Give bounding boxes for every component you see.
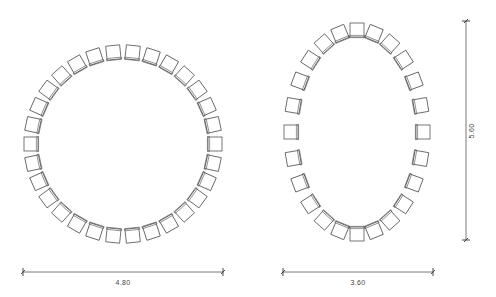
chair-icon xyxy=(187,80,208,101)
chair-icon xyxy=(51,65,72,86)
chair-icon xyxy=(285,150,302,167)
chair-icon xyxy=(393,50,414,71)
dimension-label-circle-width: 4.80 xyxy=(116,279,131,286)
chair-icon xyxy=(379,210,400,231)
chair-icon xyxy=(291,173,310,192)
chair-icon xyxy=(24,136,39,151)
chair-icon xyxy=(85,222,104,241)
chair-icon xyxy=(142,47,161,66)
chair-icon xyxy=(415,124,430,139)
chair-icon xyxy=(412,97,429,114)
chair-icon xyxy=(85,47,104,66)
chair-icon xyxy=(364,24,384,43)
chair-icon xyxy=(25,154,42,172)
chair-icon xyxy=(29,97,49,117)
dimension-ellipse-height: 5.60 xyxy=(462,19,475,242)
chair-icon xyxy=(330,221,350,240)
chair-icon xyxy=(314,33,335,54)
chair-icon xyxy=(364,221,384,240)
chair-icon xyxy=(38,187,59,208)
chair-icon xyxy=(29,171,49,191)
dimension-circle-width: 4.80 xyxy=(21,268,225,286)
chair-icon xyxy=(300,194,321,215)
chair-icon xyxy=(38,80,59,101)
chair-icon xyxy=(174,65,195,86)
chair-icon xyxy=(349,226,364,241)
chair-icon xyxy=(105,227,122,243)
chair-icon xyxy=(142,222,161,241)
chair-icon xyxy=(412,150,429,167)
chair-icon xyxy=(51,202,72,223)
chair-icon xyxy=(187,187,208,208)
seating-plan-drawing: 4.80 3.60 5.60 xyxy=(0,0,496,297)
chair-icon xyxy=(67,54,87,74)
chair-icon xyxy=(25,116,42,134)
ellipse-seating-arrangement xyxy=(284,23,430,241)
chair-icon xyxy=(314,210,335,231)
chair-icon xyxy=(197,171,217,191)
dimension-label-ellipse-width: 3.60 xyxy=(351,279,366,286)
chair-icon xyxy=(207,136,222,151)
chair-icon xyxy=(174,202,195,223)
chair-icon xyxy=(330,24,350,43)
chair-icon xyxy=(159,213,179,233)
chair-icon xyxy=(105,45,122,61)
chair-icon xyxy=(349,23,364,38)
chair-icon xyxy=(284,124,299,139)
chair-icon xyxy=(393,194,414,215)
chair-icon xyxy=(285,97,302,114)
dimension-label-ellipse-height: 5.60 xyxy=(468,124,475,139)
chair-icon xyxy=(404,173,423,192)
chair-icon xyxy=(204,116,221,134)
chair-icon xyxy=(404,71,423,90)
chair-icon xyxy=(197,97,217,117)
chair-icon xyxy=(124,45,141,61)
chair-icon xyxy=(204,154,221,172)
chair-icon xyxy=(67,213,87,233)
chair-icon xyxy=(300,50,321,71)
chair-icon xyxy=(124,227,141,243)
dimension-ellipse-width: 3.60 xyxy=(281,268,435,286)
chair-icon xyxy=(379,33,400,54)
circle-seating-arrangement xyxy=(24,45,222,244)
chair-icon xyxy=(159,54,179,74)
chair-icon xyxy=(291,71,310,90)
